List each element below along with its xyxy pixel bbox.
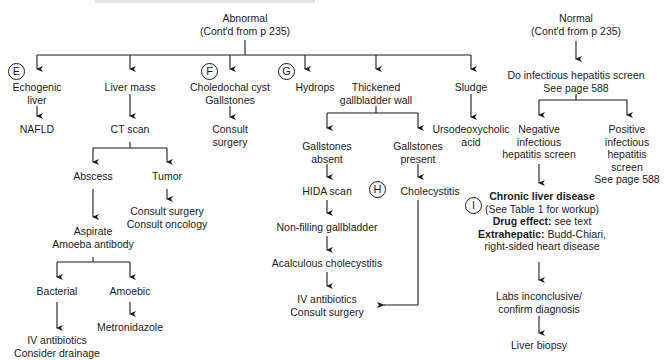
node-iv-consult-surgery: IV antibiotics Consult surgery <box>290 293 364 318</box>
node-acalculous: Acalculous cholecystitis <box>272 257 382 270</box>
text-line: confirm diagnosis <box>496 303 582 316</box>
chronic-sub: (See Table 1 for workup) <box>478 203 606 216</box>
text-line: infectious <box>502 136 576 149</box>
text-line: liver <box>12 94 61 107</box>
text-line: gallbladder wall <box>340 94 412 107</box>
node-hepatitis-screen: Do infectious hepatitis screen See page … <box>507 69 644 94</box>
text-line: Consult <box>212 123 248 136</box>
node-echogenic-liver: Echogenic liver <box>12 81 61 106</box>
node-liver-biopsy: Liver biopsy <box>511 339 567 352</box>
text-line: IV antibiotics <box>14 334 100 347</box>
node-choledochal: Choledochal cyst Gallstones <box>190 81 270 106</box>
node-cholecystitis: Cholecystitis <box>401 185 460 198</box>
drug-effect-label: Drug effect: <box>493 215 552 227</box>
node-ursodeoxycholic: Ursodeoxycholic acid <box>432 123 509 148</box>
node-hydrops: Hydrops <box>295 81 334 94</box>
text-line: acid <box>432 136 509 149</box>
abnormal-sub: (Cont'd from p 235) <box>200 25 290 38</box>
extrahepatic-text: Budd-Chiari, <box>545 228 606 240</box>
node-labs-inconclusive: Labs inconclusive/ confirm diagnosis <box>496 290 582 315</box>
text-line: Echogenic <box>12 81 61 94</box>
text-line: surgery <box>212 136 248 149</box>
node-bacterial: Bacterial <box>37 285 78 298</box>
text-line: present <box>393 153 443 166</box>
extrahepatic-line2: right-sided heart disease <box>478 240 606 253</box>
node-aspirate: Aspirate Amoeba antibody <box>52 225 134 250</box>
abnormal-label: Abnormal <box>200 12 290 25</box>
text-line: Consult oncology <box>127 218 208 231</box>
node-nafld: NAFLD <box>20 123 54 136</box>
drug-effect-text: see text <box>552 215 592 227</box>
text-line: Gallstones <box>190 94 270 107</box>
normal-sub: (Cont'd from p 235) <box>531 25 621 38</box>
text-line: Positive <box>594 123 659 136</box>
text-line: Negative <box>502 123 576 136</box>
text-line: Do infectious hepatitis screen <box>507 69 644 82</box>
text-line: infectious <box>594 136 659 149</box>
badge-F-icon: F <box>201 63 218 80</box>
text-line: hepatitis screen <box>502 148 576 161</box>
text-line: See page 588 <box>507 82 644 95</box>
node-tumor: Tumor <box>152 170 182 183</box>
badge-H-icon: H <box>369 181 386 198</box>
badge-G-icon: G <box>278 63 295 80</box>
extrahepatic-label: Extrahepatic: <box>478 228 545 240</box>
text-line: Aspirate <box>52 225 134 238</box>
text-line: Ursodeoxycholic <box>432 123 509 136</box>
badge-E-icon: E <box>8 63 25 80</box>
node-positive-screen: Positive infectious hepatitis screen See… <box>594 123 659 186</box>
node-amoebic: Amoebic <box>110 285 151 298</box>
node-chronic-liver-disease: Chronic liver disease (See Table 1 for w… <box>478 190 606 253</box>
text-line: Gallstones <box>302 140 352 153</box>
text-line: Consult surgery <box>290 306 364 319</box>
text-line: screen <box>594 161 659 174</box>
node-sludge: Sludge <box>455 81 488 94</box>
node-gallstones-absent: Gallstones absent <box>302 140 352 165</box>
text-line: Thickened <box>340 81 412 94</box>
chronic-title: Chronic liver disease <box>489 190 595 202</box>
node-ct-scan: CT scan <box>111 123 150 136</box>
normal-label: Normal <box>531 12 621 25</box>
text-line: Choledochal cyst <box>190 81 270 94</box>
text-line: Consult surgery <box>127 205 208 218</box>
node-nonfilling: Non-filling gallbladder <box>277 221 378 234</box>
text-line: absent <box>302 153 352 166</box>
text-line: Amoeba antibody <box>52 238 134 251</box>
node-normal: Normal (Cont'd from p 235) <box>531 12 621 37</box>
node-consult-surgery: Consult surgery <box>212 123 248 148</box>
node-abnormal: Abnormal (Cont'd from p 235) <box>200 12 290 37</box>
node-tumor-consult: Consult surgery Consult oncology <box>127 205 208 230</box>
node-liver-mass: Liver mass <box>105 81 156 94</box>
text-line: See page 588 <box>594 173 659 186</box>
text-line: IV antibiotics <box>290 293 364 306</box>
node-metronidazole: Metronidazole <box>97 321 163 334</box>
node-hida-scan: HIDA scan <box>302 185 352 198</box>
node-negative-screen: Negative infectious hepatitis screen <box>502 123 576 161</box>
node-thickened-wall: Thickened gallbladder wall <box>340 81 412 106</box>
text-line: Labs inconclusive/ <box>496 290 582 303</box>
text-line: Consider drainage <box>14 347 100 360</box>
text-line: hepatitis <box>594 148 659 161</box>
node-abscess: Abscess <box>73 170 113 183</box>
node-iv-drainage: IV antibiotics Consider drainage <box>14 334 100 359</box>
